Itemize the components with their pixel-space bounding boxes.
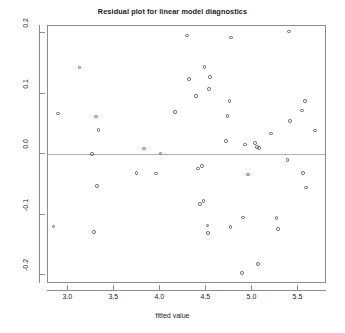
x-tick-label: 3.0	[62, 293, 72, 300]
scatter-point	[207, 87, 211, 91]
scatter-point	[304, 186, 308, 190]
scatter-point	[224, 139, 228, 143]
x-tick-label: 4.5	[201, 293, 211, 300]
scatter-point	[92, 230, 96, 234]
scatter-point	[229, 36, 233, 40]
y-tick-mark	[40, 93, 45, 94]
residual-plot-figure: Residual plot for linear model diagnosti…	[0, 0, 345, 333]
scatter-point	[196, 167, 200, 171]
y-tick-mark	[40, 214, 45, 215]
scatter-point	[228, 99, 232, 103]
scatter-point	[90, 152, 94, 156]
x-tick-label: 3.5	[108, 293, 118, 300]
y-tick-mark	[40, 153, 45, 154]
scatter-point	[202, 199, 206, 203]
scatter-point	[56, 112, 60, 116]
x-tick-label: 5.5	[293, 293, 303, 300]
scatter-point	[185, 34, 189, 38]
x-tick-label: 5.0	[247, 293, 257, 300]
x-tick-mark	[67, 285, 68, 290]
scatter-point	[135, 171, 139, 175]
scatter-point	[288, 119, 292, 123]
scatter-point	[243, 143, 247, 147]
scatter-point	[300, 109, 304, 113]
y-tick-mark	[40, 32, 45, 33]
scatter-point	[240, 271, 244, 275]
y-axis-label: residual	[0, 137, 38, 162]
scatter-point	[301, 171, 305, 175]
chart-title: Residual plot for linear model diagnosti…	[0, 7, 345, 16]
scatter-point	[276, 227, 280, 231]
scatter-point	[97, 128, 101, 132]
x-tick-mark	[297, 285, 298, 290]
y-tick-label: 0.1	[22, 79, 29, 89]
scatter-point	[194, 94, 198, 98]
scatter-point	[269, 132, 273, 136]
scatter-point	[241, 216, 245, 220]
scatter-point	[206, 231, 210, 235]
x-axis-line	[47, 290, 326, 291]
scatter-point	[142, 147, 146, 151]
scatter-point	[206, 224, 210, 228]
y-tick-label: -0.1	[22, 198, 29, 210]
x-tick-mark	[251, 285, 252, 290]
x-tick-label: 4.0	[154, 293, 164, 300]
scatter-point	[287, 30, 291, 34]
y-tick-label: -0.2	[22, 259, 29, 271]
scatter-point	[256, 262, 260, 266]
scatter-point	[246, 173, 250, 177]
scatter-point	[203, 65, 207, 69]
scatter-point	[226, 114, 230, 118]
y-tick-mark	[40, 274, 45, 275]
y-tick-label: 0.2	[22, 18, 29, 28]
scatter-point	[78, 66, 82, 70]
x-tick-mark	[113, 285, 114, 290]
scatter-point	[173, 110, 177, 114]
scatter-point	[52, 225, 56, 229]
scatter-point	[95, 184, 99, 188]
scatter-point	[229, 225, 233, 229]
scatter-point	[313, 129, 317, 133]
x-tick-mark	[205, 285, 206, 290]
scatter-point	[286, 158, 290, 162]
scatter-point	[275, 216, 279, 220]
scatter-point	[187, 77, 191, 81]
scatter-point	[198, 202, 202, 206]
scatter-point	[94, 115, 98, 119]
plot-area	[47, 25, 326, 283]
scatter-point	[303, 99, 307, 103]
scatter-point	[154, 172, 158, 176]
scatter-point	[208, 75, 212, 79]
scatter-point	[257, 146, 261, 150]
scatter-point	[200, 164, 204, 168]
x-axis-label: fitted value	[0, 312, 345, 319]
x-tick-mark	[159, 285, 160, 290]
